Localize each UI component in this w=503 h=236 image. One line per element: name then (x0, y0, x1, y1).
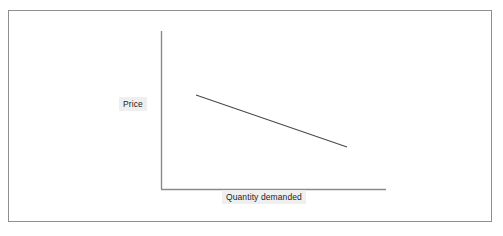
x-axis-label: Quantity demanded (222, 190, 306, 204)
figure-canvas: Price Quantity demanded (0, 0, 503, 236)
demand-curve-line (196, 95, 347, 147)
y-axis-label: Price (119, 97, 147, 111)
